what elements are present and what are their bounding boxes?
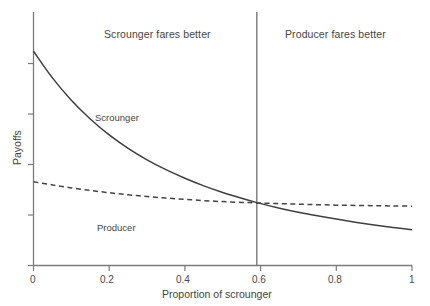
- x-tick-label-0-6: 0.6: [252, 275, 266, 285]
- producer-region-title: Producer fares better: [285, 29, 386, 40]
- producer-series-path: [34, 182, 413, 206]
- x-tick-label-0-2: 0.2: [100, 275, 114, 285]
- producer-series-label: Producer: [97, 223, 136, 233]
- scrounger-series-label: Scrounger: [95, 113, 139, 123]
- x-axis-title: Proportion of scrounger: [162, 289, 272, 300]
- y-axis-ticks: [28, 64, 34, 266]
- scrounger-region-title: Scrounger fares better: [104, 29, 211, 40]
- chart-plot-svg: [0, 0, 430, 306]
- payoffs-chart-figure: Scrounger fares better Producer fares be…: [0, 0, 430, 306]
- x-axis-ticks: [34, 266, 413, 272]
- x-tick-label-0-8: 0.8: [328, 275, 342, 285]
- x-tick-label-0: 0: [30, 275, 36, 285]
- x-tick-label-0-4: 0.4: [176, 275, 190, 285]
- scrounger-series-path: [34, 51, 413, 229]
- y-axis-title: Payoffs: [12, 130, 23, 165]
- x-tick-label-1: 1: [409, 275, 415, 285]
